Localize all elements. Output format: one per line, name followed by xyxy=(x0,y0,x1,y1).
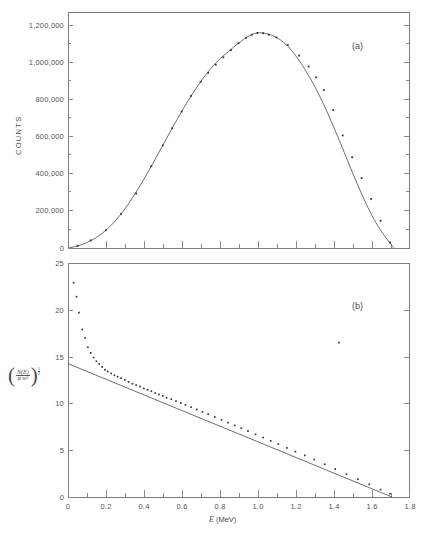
panel-b-data-point xyxy=(154,392,156,394)
panel-b-data-point xyxy=(202,411,204,413)
panel-b-data-point xyxy=(107,371,109,373)
panel-b-data-point xyxy=(389,493,391,495)
panel-b-data-point xyxy=(227,422,229,424)
panel-b-data-point xyxy=(240,427,242,429)
panel-b-data-point xyxy=(357,478,359,480)
panel-b-data-point xyxy=(78,312,80,314)
panel-b-data-point xyxy=(270,440,272,442)
panel-b-data-point xyxy=(114,374,116,376)
panel-b-data-point xyxy=(262,437,264,439)
panel-b-data-point xyxy=(214,416,216,418)
panel-b-data-point xyxy=(90,352,92,354)
panel-b-data-point xyxy=(324,463,326,465)
panel-b-data-point xyxy=(175,400,177,402)
panel-b-data-point xyxy=(81,329,83,331)
panel-b-data-point xyxy=(255,433,257,435)
panel-b-data-point xyxy=(368,484,370,486)
panel-b-plot-canvas xyxy=(0,0,425,533)
panel-b-data-point xyxy=(338,342,340,344)
panel-b-data-point xyxy=(185,404,187,406)
panel-b-data-point xyxy=(139,386,141,388)
panel-b-data-point xyxy=(84,337,86,339)
panel-b-data-point xyxy=(128,381,130,383)
panel-b-data-point xyxy=(190,406,192,408)
panel-b-data-point xyxy=(158,394,160,396)
panel-b-data-point xyxy=(380,489,382,491)
panel-b-data-point xyxy=(207,413,209,415)
panel-b-data-point xyxy=(147,389,149,391)
panel-b-data-point xyxy=(277,443,279,445)
panel-b-data-point xyxy=(334,468,336,470)
panel-b-data-point xyxy=(110,373,112,375)
panel-b-data-point xyxy=(104,369,106,371)
panel-b-data-point xyxy=(93,357,95,359)
panel-b-data-point xyxy=(196,409,198,411)
panel-b-data-point xyxy=(294,451,296,453)
panel-b-data-point xyxy=(87,346,89,348)
panel-b-data-point xyxy=(135,384,137,386)
panel-b-data-point xyxy=(98,363,100,365)
kurie-plot-figure: 0 200,000 400,000 600,000 800,000 1,000,… xyxy=(0,0,425,533)
panel-b-data-point xyxy=(143,388,145,390)
panel-b-data-point xyxy=(221,419,223,421)
panel-b-linear-fit-line xyxy=(68,364,392,497)
panel-b-data-point xyxy=(120,377,122,379)
panel-b-data-point xyxy=(346,473,348,475)
panel-b-data-point xyxy=(101,366,103,368)
panel-b-data-point xyxy=(304,455,306,457)
panel-b-data-point xyxy=(234,425,236,427)
panel-b-data-point xyxy=(73,282,75,284)
panel-b-data-point xyxy=(151,390,153,392)
panel-b-data-point xyxy=(247,430,249,432)
panel-b-data-point xyxy=(124,379,126,381)
panel-b-data-point xyxy=(286,447,288,449)
panel-b-data-point xyxy=(170,398,172,400)
panel-b-kurie-plot: 0 5 10 15 20 25 0 0.2 0.4 0.6 0.8 1.0 1.… xyxy=(0,0,425,533)
panel-b-data-point xyxy=(313,459,315,461)
panel-b-data-point xyxy=(117,376,119,378)
panel-b-data-point xyxy=(180,402,182,404)
panel-b-data-point xyxy=(132,383,134,385)
panel-b-data-point xyxy=(76,296,78,298)
panel-b-data-point xyxy=(166,397,168,399)
panel-b-data-point xyxy=(96,360,98,362)
panel-b-data-point xyxy=(162,395,164,397)
